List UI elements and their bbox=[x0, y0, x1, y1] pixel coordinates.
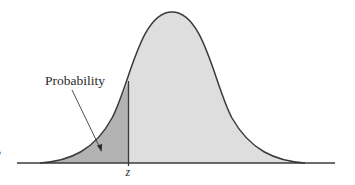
z-axis-label: z bbox=[125, 165, 131, 179]
normal-curve-figure: Probability z e bbox=[0, 0, 355, 185]
pointer-arrow-line bbox=[72, 90, 100, 148]
probability-label: Probability bbox=[45, 73, 105, 88]
cut-off-left-glyph: e bbox=[0, 146, 1, 158]
normal-curve-svg: Probability z e bbox=[0, 0, 355, 185]
shaded-probability-area bbox=[40, 81, 129, 163]
